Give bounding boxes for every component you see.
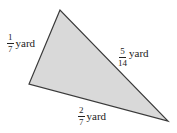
bottom-side-denominator: 7 (79, 117, 84, 127)
right-side-numerator: 5 (119, 47, 126, 58)
bottom-side-numerator: 2 (78, 106, 85, 117)
bottom-side-unit: yard (87, 111, 107, 122)
bottom-side-label: 2 7 yard (78, 106, 106, 127)
right-side-denominator: 14 (118, 58, 127, 68)
right-side-unit: yard (129, 48, 149, 59)
left-side-denominator: 7 (8, 44, 13, 54)
right-side-label: 5 14 yard (118, 47, 149, 68)
left-side-fraction: 1 7 (7, 33, 14, 54)
right-side-fraction: 5 14 (118, 47, 127, 68)
left-side-numerator: 1 (7, 33, 14, 44)
left-side-label: 1 7 yard (7, 33, 35, 54)
left-side-unit: yard (16, 38, 36, 49)
bottom-side-fraction: 2 7 (78, 106, 85, 127)
